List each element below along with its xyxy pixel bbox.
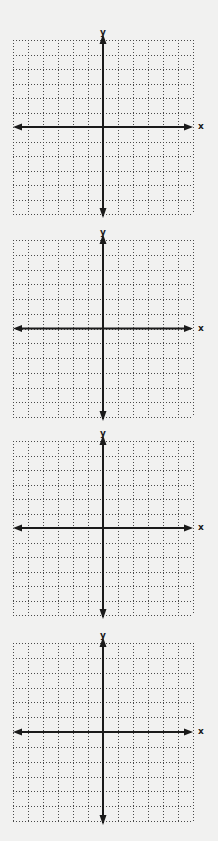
arrow-right-icon <box>184 124 193 131</box>
arrow-left-icon <box>13 325 22 332</box>
arrow-right-icon <box>184 525 193 532</box>
arrow-down-icon <box>100 208 107 218</box>
arrow-up-icon <box>100 34 107 44</box>
arrow-right-icon <box>184 729 193 736</box>
arrow-left-icon <box>13 525 22 532</box>
arrow-up-icon <box>100 637 107 647</box>
arrow-left-icon <box>13 729 22 736</box>
arrow-up-icon <box>100 234 107 244</box>
coordinate-grid <box>0 28 218 220</box>
arrow-down-icon <box>100 609 107 619</box>
arrow-down-icon <box>100 815 107 825</box>
arrow-left-icon <box>13 124 22 131</box>
arrow-right-icon <box>184 325 193 332</box>
coordinate-grid <box>0 228 218 423</box>
arrow-down-icon <box>100 411 107 421</box>
coordinate-grid <box>0 429 218 621</box>
coordinate-plane-3: y x <box>0 429 218 621</box>
coordinate-plane-2: y x <box>0 228 218 423</box>
coordinate-plane-4: y x <box>0 631 218 827</box>
arrow-up-icon <box>100 435 107 445</box>
coordinate-plane-1: y x <box>0 28 218 220</box>
coordinate-grid <box>0 631 218 827</box>
